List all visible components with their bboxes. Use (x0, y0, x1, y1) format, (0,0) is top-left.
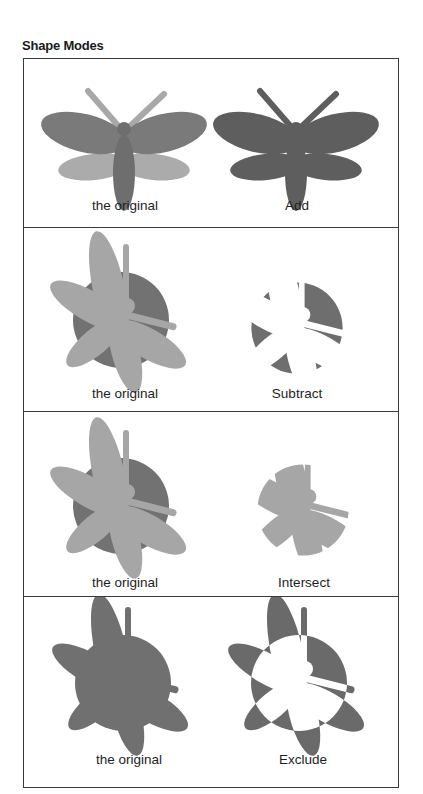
label-original: the original (92, 386, 158, 401)
panel-intersect: the original Intersect (24, 411, 398, 596)
panel-subtract: the original Subtract (24, 227, 398, 411)
panel-add: the original Add (24, 59, 398, 227)
label-original: the original (92, 575, 158, 590)
label-add: Add (285, 198, 309, 213)
label-exclude: Exclude (279, 752, 327, 767)
label-original: the original (96, 752, 162, 767)
shape-modes-figure: the original Add the original Subtract (23, 58, 399, 788)
label-original: the original (92, 198, 158, 213)
intersect-result-illustration (24, 412, 398, 597)
moth-add-result-illustration (24, 59, 398, 227)
subtract-result-illustration (24, 228, 398, 412)
exclude-result-illustration (24, 597, 398, 790)
label-intersect: Intersect (278, 575, 330, 590)
section-title: Shape Modes (22, 38, 104, 53)
panel-exclude: the original Exclude (24, 596, 398, 789)
label-subtract: Subtract (272, 386, 322, 401)
